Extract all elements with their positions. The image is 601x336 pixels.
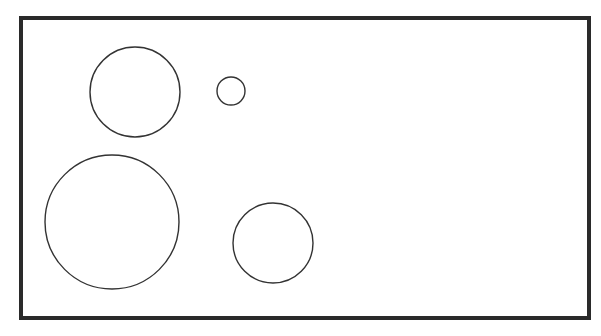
diagram-canvas	[0, 0, 601, 336]
